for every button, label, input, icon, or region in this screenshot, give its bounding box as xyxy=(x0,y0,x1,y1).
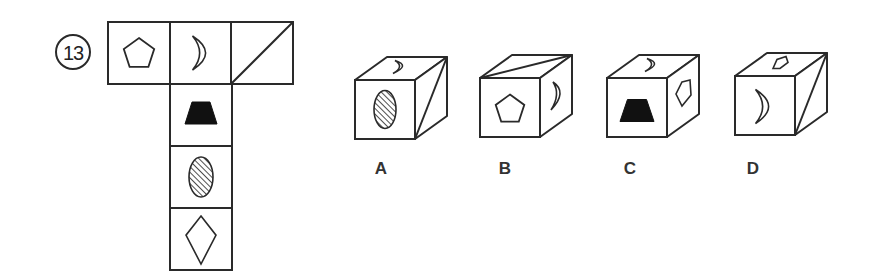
net-cell-top-2 xyxy=(170,22,232,84)
option-cube-c[interactable] xyxy=(607,55,699,137)
hatched-oval-icon xyxy=(189,157,213,197)
option-label-d[interactable]: D xyxy=(747,160,759,177)
puzzle-canvas xyxy=(0,0,877,275)
front-face xyxy=(735,76,795,135)
option-cube-b[interactable] xyxy=(480,55,572,137)
net-cell-col-1 xyxy=(170,84,232,146)
cell-border xyxy=(170,208,232,270)
cell-border xyxy=(108,22,170,84)
question-number: 13 xyxy=(63,43,83,63)
option-label-a[interactable]: A xyxy=(375,160,387,177)
option-label-b[interactable]: B xyxy=(499,160,511,177)
net-cell-top-1 xyxy=(108,22,170,84)
net-cell-top-3 xyxy=(231,22,293,84)
net-cell-col-2 xyxy=(170,146,232,208)
cell-border xyxy=(170,22,232,84)
net-cell-col-3 xyxy=(170,208,232,270)
answer-options xyxy=(355,53,827,139)
option-label-c[interactable]: C xyxy=(624,160,636,177)
front-face xyxy=(480,78,540,137)
option-cube-a[interactable] xyxy=(355,57,447,139)
option-cube-d[interactable] xyxy=(735,53,827,135)
cube-net xyxy=(108,22,293,270)
hatched-oval-icon xyxy=(374,91,396,129)
